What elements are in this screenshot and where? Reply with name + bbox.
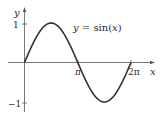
x-axis-arrow-icon bbox=[150, 61, 155, 64]
x-tick-label-2pi: 2π bbox=[128, 67, 140, 77]
sine-chart: y x 1 −1 π 2π y = sin(x) bbox=[0, 0, 162, 115]
y-axis-label: y bbox=[13, 7, 20, 18]
equation-label: y = sin(x) bbox=[72, 22, 122, 33]
y-tick-label-neg1: −1 bbox=[8, 99, 21, 109]
y-axis-arrow-icon bbox=[23, 7, 26, 12]
y-tick-label-1: 1 bbox=[13, 20, 19, 30]
x-tick-label-pi: π bbox=[74, 67, 82, 77]
x-axis-label: x bbox=[150, 66, 156, 77]
